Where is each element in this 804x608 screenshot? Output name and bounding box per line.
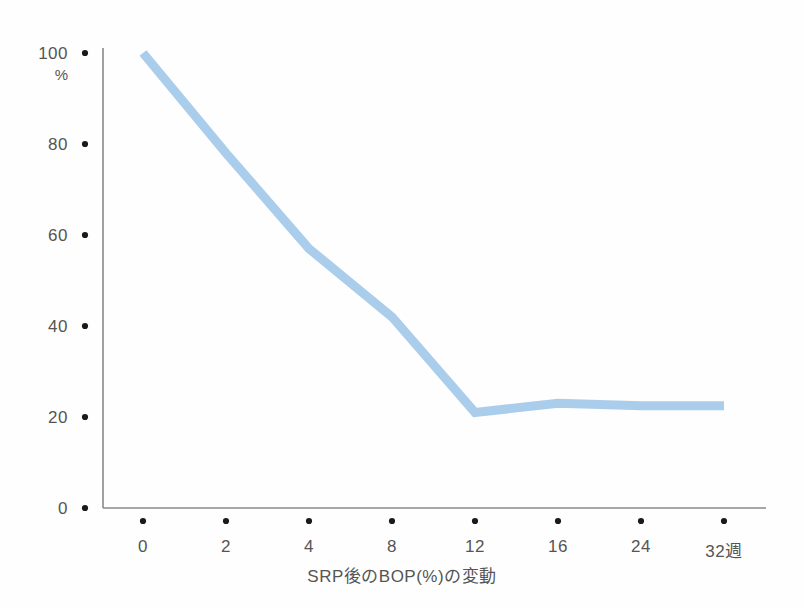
x-tick-dot-4 — [306, 518, 312, 524]
x-tick-dot-8 — [389, 518, 395, 524]
y-tick-dot-100 — [82, 50, 88, 56]
x-tick-dot-16 — [555, 518, 561, 524]
x-tick-dot-24 — [638, 518, 644, 524]
x-tick-dot-12 — [472, 518, 478, 524]
y-tick-dot-20 — [82, 414, 88, 420]
y-tick-dot-40 — [82, 323, 88, 329]
plot-area — [0, 0, 804, 608]
x-tick-dot-32 — [721, 518, 727, 524]
x-tick-dot-0 — [140, 518, 146, 524]
y-tick-dot-60 — [82, 232, 88, 238]
x-tick-dot-2 — [223, 518, 229, 524]
y-tick-dot-80 — [82, 141, 88, 147]
y-tick-dot-0 — [82, 505, 88, 511]
chart-figure: 100 % 80 60 40 20 0 0 2 4 8 12 16 24 32週… — [0, 0, 804, 608]
data-series-line — [143, 53, 724, 412]
